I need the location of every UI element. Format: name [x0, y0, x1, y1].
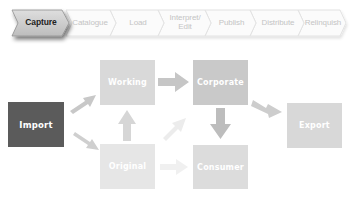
arrow-original-to-corporate	[163, 118, 186, 141]
arrow-corporate-to-consumer	[210, 108, 231, 139]
arrow-original-to-consumer	[160, 159, 188, 175]
node-corporate: Corporate	[193, 60, 248, 105]
arrow-corporate-to-export	[251, 100, 282, 118]
node-export: Export	[287, 103, 342, 148]
node-original: Original	[100, 144, 155, 189]
node-import: Import	[8, 102, 64, 147]
arrow-import-to-working	[70, 95, 96, 114]
node-working: Working	[100, 60, 155, 105]
flow-arrows	[0, 0, 352, 200]
arrow-working-to-corporate	[158, 72, 189, 92]
arrow-original-to-working	[118, 110, 136, 141]
arrow-import-to-original	[73, 132, 99, 150]
node-consumer: Consumer	[193, 145, 248, 189]
